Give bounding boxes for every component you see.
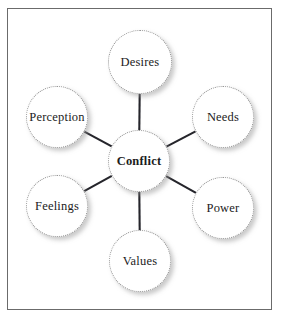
- node-perception[interactable]: Perception: [26, 86, 88, 148]
- node-feelings[interactable]: Feelings: [26, 175, 88, 237]
- node-label-conflict: Conflict: [117, 155, 162, 168]
- node-desires[interactable]: Desires: [108, 30, 172, 94]
- node-needs[interactable]: Needs: [192, 86, 254, 148]
- edge-conflict-perception: [84, 132, 111, 147]
- node-label-values: Values: [123, 255, 158, 268]
- node-label-perception: Perception: [29, 111, 84, 124]
- node-label-needs: Needs: [207, 111, 239, 124]
- edge-conflict-power: [166, 176, 196, 193]
- node-label-power: Power: [207, 202, 240, 215]
- node-power[interactable]: Power: [192, 177, 254, 239]
- diagram-canvas: DesiresNeedsPowerValuesFeelingsPerceptio…: [0, 0, 281, 320]
- edge-conflict-needs: [166, 131, 195, 146]
- node-conflict[interactable]: Conflict: [108, 130, 170, 192]
- node-label-feelings: Feelings: [35, 200, 79, 213]
- edge-conflict-feelings: [84, 176, 112, 191]
- node-values[interactable]: Values: [109, 230, 171, 292]
- node-label-desires: Desires: [121, 56, 160, 69]
